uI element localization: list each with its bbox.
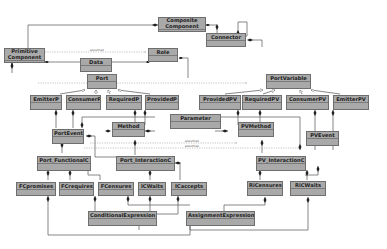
class-port-functional-c[interactable]: Port_FunctionalC [37, 156, 91, 171]
class-connector[interactable]: Connector [206, 33, 246, 47]
class-name: Connector [207, 34, 245, 41]
class-name: Primitive Component [5, 49, 44, 61]
class-port-interaction-c[interactable]: Port_InteractionC [116, 156, 175, 171]
class-assignment-expression[interactable]: AssignmentExpression [186, 211, 255, 226]
class-name: PVMethod [239, 123, 273, 130]
class-name: Parameter [171, 115, 220, 122]
class-emitter-p[interactable]: EmitterP [30, 95, 62, 110]
class-composite-component[interactable]: Composite Component [158, 17, 206, 32]
class-ric-waits[interactable]: RiCWaits [290, 181, 326, 196]
class-consumer-p[interactable]: ConsumerP [66, 95, 101, 110]
class-consumer-pv[interactable]: ConsumerPV [286, 95, 329, 110]
class-name: RequiredPV [243, 96, 281, 103]
class-name: PV_InteractionC [257, 157, 305, 164]
class-method[interactable]: Method [112, 122, 145, 137]
class-pv-interaction-c[interactable]: PV_InteractionC [256, 156, 306, 171]
class-name: FCrequires [60, 183, 93, 190]
class-fc-promises[interactable]: FCpromises [16, 182, 56, 196]
class-name: FCensures [99, 183, 133, 190]
class-name: ICaccepts [172, 183, 206, 190]
class-role[interactable]: Role [148, 48, 178, 62]
class-fc-requires[interactable]: FCrequires [59, 182, 94, 196]
class-fc-censures[interactable]: FCensures [98, 182, 134, 196]
class-ri-censures[interactable]: RiCensures [247, 181, 283, 196]
class-provided-pv[interactable]: ProvidedPV [199, 95, 241, 110]
class-port-event[interactable]: PortEvent [52, 129, 84, 144]
class-name: RiCWaits [291, 182, 325, 189]
svg-text:assumes: assumes [185, 139, 199, 143]
class-name: EmitterPV [334, 96, 368, 103]
class-name: RiCensures [248, 182, 282, 189]
class-name: ConsumerPV [287, 96, 328, 103]
class-pv-method[interactable]: PVMethod [238, 122, 274, 137]
class-parameter[interactable]: Parameter [170, 114, 221, 129]
class-port-variable[interactable]: PortVariable [266, 74, 311, 89]
class-ic-accepts[interactable]: ICaccepts [171, 182, 207, 196]
class-name: Port [88, 75, 116, 82]
class-provided-p[interactable]: ProvidedP [145, 95, 179, 110]
class-name: ProvidedP [146, 96, 178, 103]
class-name: EmitterP [31, 96, 61, 103]
class-name: Data [81, 59, 111, 66]
class-port[interactable]: Port [87, 74, 117, 89]
class-required-p[interactable]: RequiredP [106, 95, 142, 110]
class-pv-event[interactable]: PVEvent [306, 131, 339, 146]
class-name: ConsumerP [67, 96, 100, 103]
class-name: PortVariable [267, 75, 310, 82]
class-name: RequiredP [107, 96, 141, 103]
class-required-pv[interactable]: RequiredPV [242, 95, 282, 110]
uml-diagram: assumes assumes assumes assumes Composit… [0, 0, 387, 249]
svg-text:assumes: assumes [90, 48, 104, 52]
class-primitive-component[interactable]: Primitive Component [4, 48, 45, 63]
class-name: PVEvent [307, 132, 338, 139]
class-name: ICWaits [139, 183, 165, 190]
class-ic-waits[interactable]: ICWaits [138, 182, 166, 196]
class-name: FCpromises [17, 183, 55, 190]
class-conditional-expression[interactable]: ConditionalExpression [88, 211, 157, 226]
class-name: AssignmentExpression [187, 212, 254, 219]
class-name: Port_FunctionalC [38, 157, 90, 164]
class-name: Composite Component [159, 18, 205, 30]
class-data[interactable]: Data [80, 58, 112, 72]
svg-text:assumes: assumes [185, 144, 199, 148]
class-name: PortEvent [53, 130, 83, 137]
class-name: Method [113, 123, 144, 130]
class-emitter-pv[interactable]: EmitterPV [333, 95, 369, 110]
class-name: Port_InteractionC [117, 157, 174, 164]
class-name: ProvidedPV [200, 96, 240, 103]
class-name: Role [149, 49, 177, 56]
class-name: ConditionalExpression [89, 212, 156, 219]
